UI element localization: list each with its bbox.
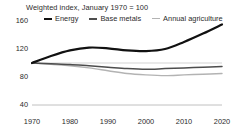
x-tick-1980: 1980 <box>62 118 78 125</box>
chart-container: Weighted index, January 1970 = 100 Energ… <box>0 0 234 135</box>
x-tick-2010: 2010 <box>176 118 192 125</box>
x-tick-1970: 1970 <box>24 118 40 125</box>
series-line-energy <box>32 25 222 64</box>
plot-area <box>0 0 234 135</box>
series-lines <box>32 25 222 76</box>
series-line-base-metals <box>32 63 222 69</box>
x-tick-2000: 2000 <box>138 118 154 125</box>
x-tick-1990: 1990 <box>100 118 116 125</box>
x-tick-2020: 2020 <box>214 118 230 125</box>
x-axis-labels: 197019801990200020102020 <box>0 118 234 130</box>
